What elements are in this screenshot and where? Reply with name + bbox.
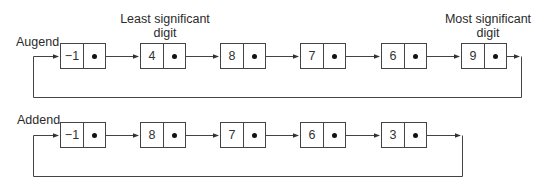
most-significant-line1: Most significant — [436, 12, 540, 26]
pointer-dot-icon — [172, 133, 177, 138]
node-pointer — [485, 44, 506, 68]
augend-node-5: 9 — [461, 43, 507, 69]
node-pointer — [244, 44, 265, 68]
least-significant-line1: Least significant — [112, 12, 218, 26]
node-value: −1 — [61, 44, 84, 68]
node-value: 3 — [382, 123, 405, 147]
node-value: 6 — [382, 44, 405, 68]
least-significant-line2: digit — [112, 26, 218, 40]
augend-node-1: 4 — [140, 43, 186, 69]
least-significant-label: Least significant digit — [112, 12, 218, 40]
augend-label: Augend — [16, 35, 59, 49]
addend-node-4: 3 — [381, 122, 427, 148]
addend-node-3: 6 — [300, 122, 346, 148]
pointer-dot-icon — [92, 133, 97, 138]
pointer-dot-icon — [252, 133, 257, 138]
addend-node-2: 7 — [220, 122, 266, 148]
most-significant-line2: digit — [436, 26, 540, 40]
node-value: 7 — [301, 44, 324, 68]
most-significant-label: Most significant digit — [436, 12, 540, 40]
node-pointer — [84, 44, 105, 68]
pointer-dot-icon — [172, 54, 177, 59]
node-value: 8 — [221, 44, 244, 68]
pointer-dot-icon — [92, 54, 97, 59]
node-value: −1 — [61, 123, 84, 147]
addend-node-1: 8 — [140, 122, 186, 148]
augend-node-2: 8 — [220, 43, 266, 69]
augend-node-3: 7 — [300, 43, 346, 69]
node-value: 6 — [301, 123, 324, 147]
node-pointer — [405, 123, 426, 147]
node-pointer — [324, 123, 345, 147]
node-value: 7 — [221, 123, 244, 147]
pointer-dot-icon — [252, 54, 257, 59]
node-pointer — [405, 44, 426, 68]
node-pointer — [244, 123, 265, 147]
node-pointer — [324, 44, 345, 68]
augend-node-header: −1 — [60, 43, 106, 69]
pointer-dot-icon — [413, 54, 418, 59]
pointer-dot-icon — [413, 133, 418, 138]
pointer-dot-icon — [493, 54, 498, 59]
node-value: 4 — [141, 44, 164, 68]
addend-node-header: −1 — [60, 122, 106, 148]
addend-label: Addend — [17, 113, 60, 127]
node-pointer — [164, 123, 185, 147]
node-pointer — [164, 44, 185, 68]
node-value: 9 — [462, 44, 485, 68]
pointer-dot-icon — [332, 133, 337, 138]
pointer-dot-icon — [332, 54, 337, 59]
augend-node-4: 6 — [381, 43, 427, 69]
node-value: 8 — [141, 123, 164, 147]
node-pointer — [84, 123, 105, 147]
